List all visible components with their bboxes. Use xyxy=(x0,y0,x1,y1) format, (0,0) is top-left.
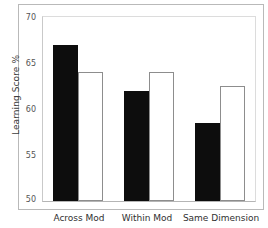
bar-black-same-dimension xyxy=(195,123,220,201)
x-label-within-mod: Within Mod xyxy=(112,213,182,223)
y-tick-label: 65 xyxy=(12,60,36,68)
y-tick-label: 50 xyxy=(12,196,36,204)
y-tick-label: 55 xyxy=(12,152,36,160)
bar-chart-figure: Learning Score % 70 65 60 55 50 Across M… xyxy=(0,0,268,228)
bar-black-across-mod xyxy=(53,45,78,201)
y-tick-label: 70 xyxy=(12,14,36,22)
x-label-across-mod: Across Mod xyxy=(44,213,114,223)
bar-white-same-dimension xyxy=(220,86,245,201)
bar-black-within-mod xyxy=(124,91,149,201)
bar-white-within-mod xyxy=(149,72,174,201)
bars-layer xyxy=(43,17,255,201)
bar-white-across-mod xyxy=(78,72,103,201)
y-tick-label: 60 xyxy=(12,106,36,114)
x-label-same-dimension: Same Dimension xyxy=(178,213,264,223)
plot-area xyxy=(42,16,256,202)
y-axis-title: Learning Score % xyxy=(11,35,21,155)
